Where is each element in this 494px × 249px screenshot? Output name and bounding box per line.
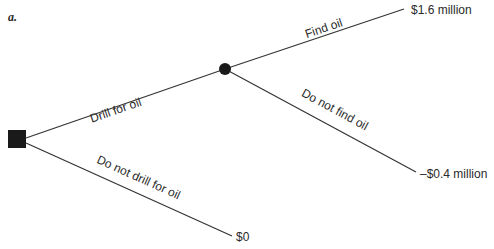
decision-tree-diagram: a. Drill for oil Do not drill for oil Fi… xyxy=(0,0,494,249)
outcome-no-find: –$0.4 million xyxy=(420,167,487,181)
branch-label-no-drill: Do not drill for oil xyxy=(95,152,183,202)
branch-label-drill: Drill for oil xyxy=(88,95,143,126)
decision-node-square-icon xyxy=(8,130,26,148)
chance-node-circle-icon xyxy=(219,63,231,75)
branch-no-drill-line xyxy=(26,143,232,236)
outcome-no-drill: $0 xyxy=(236,230,250,244)
outcome-find: $1.6 million xyxy=(411,3,472,17)
branch-find-line xyxy=(225,9,404,69)
panel-label: a. xyxy=(8,10,17,24)
branch-no-find-line xyxy=(225,69,416,172)
branch-label-find: Find oil xyxy=(303,15,344,41)
branch-label-no-find: Do not find oil xyxy=(299,86,370,133)
